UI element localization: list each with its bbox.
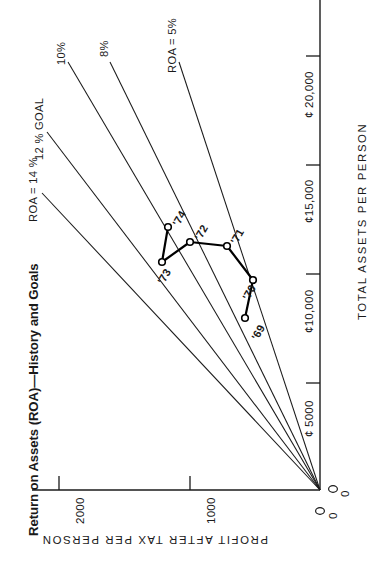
ray-8 [110,62,320,490]
x-origin-zero-glyph [329,486,338,493]
x-tick-label-20000: ¢ 20,000 [302,71,315,118]
data-point-73 [159,259,166,266]
y-origin-zero-glyph [316,508,325,515]
y-tick-label-2000: 2000 [73,497,86,524]
x-tick-label-15000: ¢15,000 [302,180,315,223]
y-tick-label-1000: 1000 [204,497,217,524]
data-point-70 [250,277,257,284]
ray-10 [68,62,320,490]
data-point-71 [224,243,231,250]
x-axis-zero-label: 0 [338,490,351,497]
data-point-72 [187,239,194,246]
y-axis-ticks [59,476,190,490]
x-tick-label-10000: ¢10,000 [302,290,315,333]
ray-label-14: ROA = 14 % [27,157,39,222]
ray-label-12: 12 % GOAL [33,98,45,160]
ray-label-10: 10% [55,42,67,65]
y-axis-label: PROFIT AFTER TAX PER PERSON [41,534,268,546]
ray-label-8: 8% [98,40,110,57]
ray-12 [47,132,320,490]
ray-label-5: ROA = 5% [166,18,178,73]
data-point-74 [165,224,172,231]
x-axis-label: TOTAL ASSETS PER PERSON [356,123,368,320]
chart-title: Return on Assets (ROA)—History and Goals [26,264,41,537]
ray-lines [42,62,320,490]
y-axis-zero-label: 0 [326,512,339,519]
ray-14 [42,193,320,490]
x-tick-label-5000: ¢ 5000 [302,400,315,437]
data-point-69 [242,315,249,322]
